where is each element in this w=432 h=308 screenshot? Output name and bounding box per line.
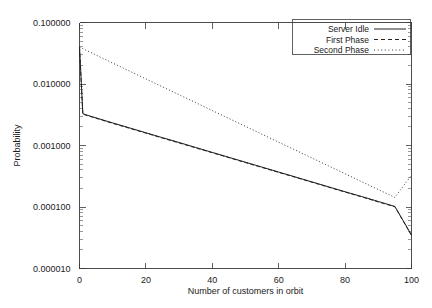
y-axis-title: Probability: [12, 124, 22, 167]
x-axis-ticks: [80, 23, 412, 269]
axes-frame: [80, 23, 412, 269]
plot-frame: [80, 23, 412, 269]
legend-label-first-phase: First Phase: [326, 35, 369, 45]
legend: Server IdleFirst PhaseSecond Phase: [293, 20, 411, 56]
y-tick-label: 0.000010: [33, 264, 71, 274]
x-tick-label: 80: [340, 275, 350, 285]
x-tick-label: 100: [404, 275, 419, 285]
chart-page: 0.1000000.0100000.0010000.0001000.000010…: [0, 0, 432, 308]
y-tick-label: 0.000100: [33, 202, 71, 212]
x-axis-tick-labels: 020406080100: [77, 275, 419, 285]
y-tick-label: 0.010000: [33, 79, 71, 89]
y-tick-label: 0.001000: [33, 141, 71, 151]
legend-label-server-idle: Server Idle: [328, 24, 369, 34]
y-tick-label: 0.100000: [33, 18, 71, 28]
series-second-phase: [80, 47, 412, 197]
x-tick-label: 40: [207, 275, 217, 285]
y-axis-tick-labels: 0.1000000.0100000.0010000.0001000.000010: [33, 18, 71, 274]
series-first-phase: [80, 47, 412, 235]
x-tick-label: 60: [274, 275, 284, 285]
legend-label-second-phase: Second Phase: [314, 45, 370, 55]
x-axis-title: Number of customers in orbit: [188, 286, 304, 296]
series-server-idle: [80, 47, 412, 235]
x-tick-label: 20: [141, 275, 151, 285]
y-axis-ticks: [80, 23, 412, 269]
probability-decay-chart: 0.1000000.0100000.0010000.0001000.000010…: [0, 0, 432, 308]
x-tick-label: 0: [77, 275, 82, 285]
series-group: [80, 47, 412, 235]
